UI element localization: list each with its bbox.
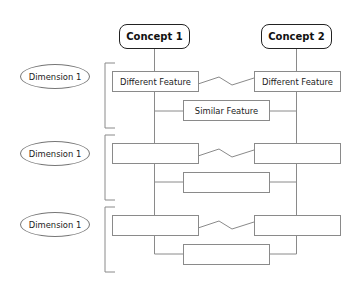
feature-label: Similar Feature [195,106,258,116]
dimension-2-ellipse: Dimension 1 [20,141,90,166]
dimension-3-right-feature [254,215,341,236]
concept-1-label: Concept 1 [126,31,182,42]
dimension-1-similar-feature: Similar Feature [183,100,270,121]
dimension-2-left-feature [112,143,199,164]
concept-2-label: Concept 2 [268,31,324,42]
different-link-2 [198,149,254,157]
feature-label: Different Feature [262,77,333,87]
dimension-3-similar-feature [183,244,270,265]
dimension-2-similar-feature [183,172,270,193]
dimension-2-label: Dimension 1 [29,149,82,159]
dimension-1-left-feature: Different Feature [112,71,199,92]
different-link-1 [198,77,254,85]
dimension-3-ellipse: Dimension 1 [20,212,90,237]
dimension-3-left-feature [112,215,199,236]
dimension-2-right-feature [254,143,341,164]
different-link-3 [198,221,254,229]
concept-2-node: Concept 2 [261,24,332,49]
concept-1-node: Concept 1 [119,24,190,49]
feature-label: Different Feature [120,77,191,87]
dimension-3-label: Dimension 1 [29,220,82,230]
dimension-1-ellipse: Dimension 1 [20,64,90,89]
dimension-1-label: Dimension 1 [29,72,82,82]
dimension-1-right-feature: Different Feature [254,71,341,92]
concept-comparison-diagram: Concept 1 Concept 2 Dimension 1 Differen… [0,0,358,287]
